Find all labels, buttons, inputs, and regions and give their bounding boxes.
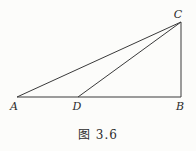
- triangle-edges: [17, 22, 181, 97]
- figure-caption: 图 3.6: [0, 125, 196, 142]
- vertex-label-A: A: [9, 100, 18, 113]
- vertex-label-D: D: [72, 100, 82, 113]
- vertex-label-C: C: [174, 8, 183, 21]
- edge-DC: [78, 22, 181, 97]
- geometry-figure: ADBC 图 3.6: [0, 0, 196, 151]
- edge-AC: [17, 22, 181, 97]
- vertex-label-B: B: [175, 100, 184, 113]
